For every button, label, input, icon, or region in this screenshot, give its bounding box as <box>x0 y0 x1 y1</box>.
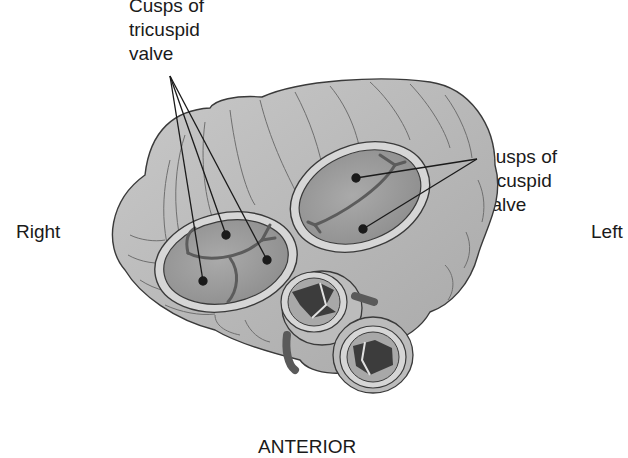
tricuspid-cusp-point-2 <box>222 231 230 239</box>
heart-valve-diagram <box>0 0 628 458</box>
aortic-valve <box>333 317 413 393</box>
bicuspid-cusp-point-2 <box>359 225 367 233</box>
bicuspid-cusp-point-1 <box>352 174 360 182</box>
tricuspid-cusp-point-3 <box>263 256 271 264</box>
tricuspid-cusp-point-1 <box>199 277 207 285</box>
